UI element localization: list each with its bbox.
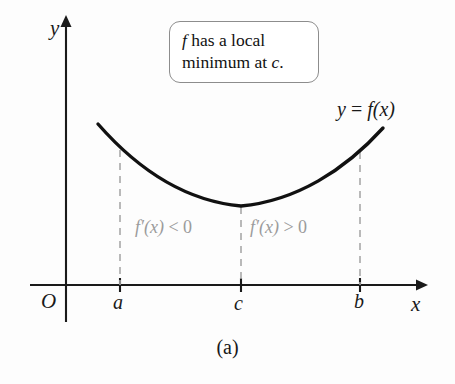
figure-caption: (a) [0, 337, 455, 357]
callout-line-1: f has a local [182, 29, 308, 51]
tick-label-b: b [354, 291, 364, 311]
callout-line-2: minimum at c. [182, 51, 308, 73]
origin-label: O [41, 291, 56, 312]
deriv-right-arg: (x) [259, 217, 279, 237]
y-axis-label: y [50, 18, 59, 39]
derivative-positive-label: f′(x) > 0 [250, 218, 307, 236]
deriv-left-value: 0 [183, 217, 192, 237]
derivative-negative-label: f′(x) < 0 [135, 218, 192, 236]
function-curve [98, 124, 383, 206]
x-axis-arrowhead [416, 280, 428, 291]
x-axis-label: x [411, 294, 420, 315]
callout-line-2-text: minimum at [182, 52, 271, 72]
deriv-left-relation: < [164, 217, 183, 237]
tick-label-c: c [234, 293, 243, 313]
deriv-right-value: 0 [298, 217, 307, 237]
figure-local-minimum: y x O a c b y = f(x) f′(x) < 0 f′(x) > 0… [0, 0, 455, 384]
callout-period: . [279, 52, 283, 72]
curve-label-arg: (x) [373, 98, 395, 120]
y-axis-arrowhead [61, 15, 72, 27]
deriv-left-arg: (x) [144, 217, 164, 237]
curve-label-equals: = [346, 98, 367, 120]
callout-box: f has a local minimum at c. [169, 21, 319, 83]
tick-label-a: a [113, 292, 123, 312]
curve-label-y: y [337, 98, 346, 120]
curve-equation-label: y = f(x) [337, 99, 395, 119]
callout-line-1-text: has a local [187, 30, 265, 50]
deriv-right-relation: > [279, 217, 298, 237]
